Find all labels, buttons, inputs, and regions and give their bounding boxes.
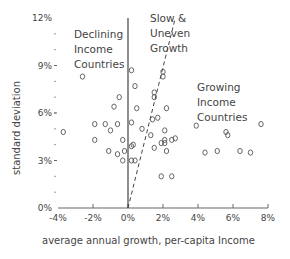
data-point xyxy=(150,117,154,122)
declining-income-label: Income xyxy=(74,43,113,55)
slow-uneven-growth-label: Uneven xyxy=(150,27,190,39)
slow-uneven-growth-label: Growth xyxy=(150,42,188,54)
x-tick-label: 0% xyxy=(121,213,136,223)
data-point xyxy=(149,133,153,138)
declining-income-label: Declining xyxy=(74,28,123,40)
data-point xyxy=(152,145,156,150)
data-point xyxy=(259,121,263,126)
data-point xyxy=(115,152,119,157)
data-point xyxy=(203,150,207,155)
x-tick-label: 8% xyxy=(261,213,276,223)
data-point xyxy=(164,106,168,111)
annotations: DecliningIncomeCountriesSlow &UnevenGrow… xyxy=(74,12,247,123)
data-point xyxy=(170,174,174,179)
data-point xyxy=(140,126,144,131)
scatter-chart: -4%-2%0%2%4%6%8%0%3%6%9%12% DecliningInc… xyxy=(0,0,290,259)
x-tick-label: 4% xyxy=(191,213,206,223)
x-tick-label: 2% xyxy=(156,213,171,223)
growing-income-label: Income xyxy=(197,96,236,108)
x-tick-label: 6% xyxy=(226,213,241,223)
data-point xyxy=(164,148,168,153)
declining-income-label: Countries xyxy=(74,58,124,70)
data-point xyxy=(121,158,125,163)
growing-income-label: Growing xyxy=(197,81,240,93)
data-point xyxy=(159,174,163,179)
data-point xyxy=(103,121,107,126)
data-point xyxy=(133,83,137,88)
data-point xyxy=(194,123,198,128)
slow-uneven-growth-label: Slow & xyxy=(150,12,186,24)
y-tick-label: 0% xyxy=(38,203,53,213)
data-point xyxy=(163,128,167,133)
x-axis-label: average annual growth, per-capita Income xyxy=(42,235,255,246)
y-tick-label: 12% xyxy=(32,13,52,23)
y-tick-label: 3% xyxy=(38,156,53,166)
data-point xyxy=(215,148,219,153)
data-point xyxy=(108,128,112,133)
data-point xyxy=(156,115,160,120)
data-point xyxy=(248,150,252,155)
data-point xyxy=(129,120,133,125)
y-tick-label: 9% xyxy=(38,61,53,71)
data-point xyxy=(93,121,97,126)
data-point xyxy=(121,137,125,142)
data-point xyxy=(115,121,119,126)
data-point xyxy=(129,68,133,73)
y-axis-label: standard deviation xyxy=(11,81,22,175)
y-tick-label: 6% xyxy=(38,108,53,118)
data-point xyxy=(80,74,84,79)
x-tick-label: -4% xyxy=(49,213,67,223)
growing-income-label: Countries xyxy=(197,111,247,123)
data-point xyxy=(122,148,126,153)
x-tick-label: -2% xyxy=(84,213,102,223)
data-point xyxy=(61,129,65,134)
data-point xyxy=(93,137,97,142)
data-point xyxy=(107,148,111,153)
data-point xyxy=(238,148,242,153)
data-point xyxy=(112,104,116,109)
data-point xyxy=(135,106,139,111)
data-point xyxy=(117,95,121,100)
